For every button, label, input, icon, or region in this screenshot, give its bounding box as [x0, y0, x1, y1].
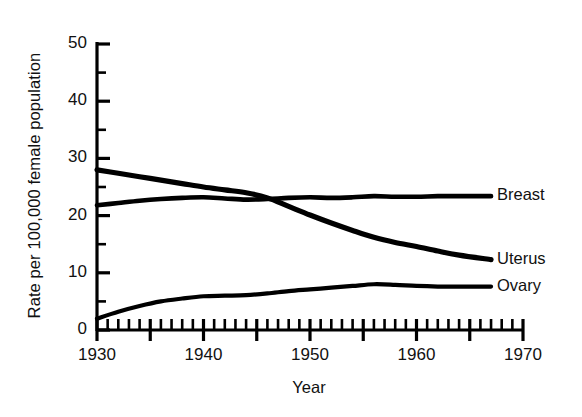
- x-tick-label: 1950: [275, 345, 345, 365]
- y-tick-label: 30: [41, 147, 87, 167]
- y-tick-label: 20: [41, 205, 87, 225]
- series-line-breast: [97, 196, 491, 205]
- x-tick-label: 1940: [169, 345, 239, 365]
- x-tick-label: 1930: [62, 345, 132, 365]
- chart-container: Rate per 100,000 female population Year …: [0, 0, 582, 417]
- x-tick-label: 1960: [382, 345, 452, 365]
- series-label-ovary: Ovary: [497, 276, 541, 295]
- series-label-breast: Breast: [497, 185, 545, 204]
- series-label-uterus: Uterus: [497, 249, 546, 268]
- y-tick-label: 10: [41, 262, 87, 282]
- series-line-ovary: [97, 284, 491, 318]
- x-tick-label: 1970: [488, 345, 558, 365]
- y-tick-label: 0: [41, 319, 87, 339]
- y-tick-label: 50: [41, 33, 87, 53]
- series-line-uterus: [97, 170, 491, 260]
- y-tick-label: 40: [41, 90, 87, 110]
